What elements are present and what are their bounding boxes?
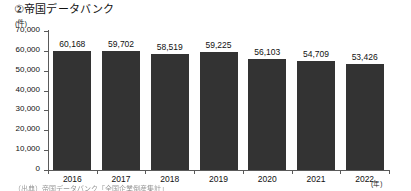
source-footnote: （出典）帝国データバンク「全国企業倒産集計」 — [14, 184, 168, 191]
x-axis-tick-label: 2016 — [48, 174, 97, 184]
bar-group: 59,702 — [102, 31, 140, 170]
bar — [200, 52, 238, 170]
chart-title: ②帝国データバンク — [14, 2, 115, 16]
bar-group: 60,168 — [53, 31, 91, 170]
bar-chart: ②帝国データバンク (件) 70,00060,00050,00040,00030… — [0, 0, 411, 191]
y-axis-tick-label: 20,000 — [16, 124, 40, 134]
x-axis-tick-label: 2018 — [145, 174, 194, 184]
y-axis-tick-label: 70,000 — [16, 25, 40, 35]
x-axis-tick-label: 2020 — [243, 174, 292, 184]
bar-value-label: 53,426 — [334, 52, 396, 62]
bar — [346, 64, 384, 170]
y-axis-tick-label: 10,000 — [16, 144, 40, 154]
x-axis-tick-label: 2021 — [292, 174, 341, 184]
bar — [248, 59, 286, 170]
bar-group: 54,709 — [297, 31, 335, 170]
bar-group: 56,103 — [248, 31, 286, 170]
bars-container: 60,16859,70258,51959,22556,10354,70953,4… — [48, 31, 389, 170]
bar — [297, 61, 335, 170]
x-axis-unit-label: (年) — [371, 180, 382, 188]
bar-group: 53,426 — [346, 31, 384, 170]
y-axis-tick-label: 0 — [36, 164, 40, 174]
y-axis-tick-label: 40,000 — [16, 85, 40, 95]
y-axis-tick-label: 30,000 — [16, 104, 40, 114]
x-axis-line — [48, 170, 389, 171]
bar-group: 59,225 — [200, 31, 238, 170]
bar-group: 58,519 — [151, 31, 189, 170]
y-axis-tick-label: 50,000 — [16, 65, 40, 75]
x-axis-tick-label: 2019 — [194, 174, 243, 184]
bar — [151, 54, 189, 170]
bar — [102, 51, 140, 170]
y-axis-tick-label: 60,000 — [16, 45, 40, 55]
x-axis-tick-label: 2017 — [97, 174, 146, 184]
bar — [53, 51, 91, 170]
x-axis-tick-mark — [389, 170, 390, 174]
